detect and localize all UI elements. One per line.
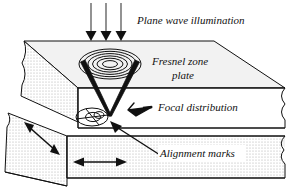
label-plane-wave: Plane wave illumination — [136, 14, 245, 26]
label-alignment-marks: Alignment marks — [159, 147, 235, 159]
fresnel-zone-plate-diagram: Plane wave illumination Fresnel zone pla… — [0, 0, 296, 194]
down-arrow-icon — [86, 3, 97, 41]
figure-canvas: Plane wave illumination Fresnel zone pla… — [0, 0, 296, 194]
down-arrow-icon — [116, 3, 127, 41]
bottom-slab-side-face — [5, 113, 67, 186]
label-fresnel-line1: Fresnel zone — [151, 55, 208, 67]
down-arrow-icon — [101, 3, 112, 41]
plane-wave-arrows — [86, 3, 127, 41]
label-focal-distribution: Focal distribution — [157, 101, 238, 113]
label-fresnel-line2: plate — [171, 69, 194, 81]
